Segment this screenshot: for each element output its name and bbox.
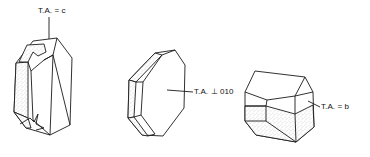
crystal-drawings: [0, 0, 370, 157]
crystal-1-label: T.A. = c: [38, 6, 66, 15]
crystal-2-drawing: [128, 50, 193, 136]
crystal-3-label: T.A. = b: [321, 102, 349, 111]
crystal-1-drawing: [14, 17, 72, 135]
crystal-2-label: T.A. ⊥ 010: [194, 87, 234, 96]
crystal-1-stippled-face: [14, 62, 28, 118]
crystal-3-drawing: [245, 71, 320, 142]
crystal-figure: T.A. = c T.A. ⊥ 010 T.A. = b: [0, 0, 370, 157]
crystal-3-stippled-lower-face: [245, 105, 314, 142]
